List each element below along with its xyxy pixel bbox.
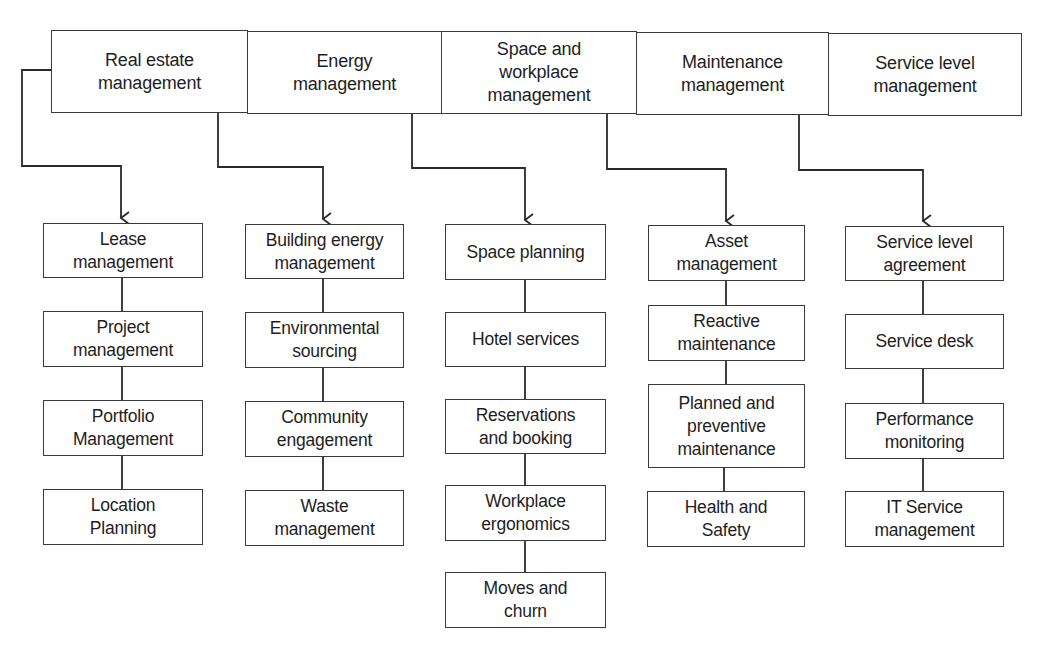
item-workplace-ergonomics: Workplace ergonomics (445, 485, 606, 541)
item-reactive-maintenance: Reactive maintenance (648, 305, 805, 361)
item-health-and-safety: Health and Safety (647, 491, 805, 547)
category-real-estate-management: Real estate management (51, 30, 248, 113)
item-moves-and-churn: Moves and churn (445, 572, 606, 628)
item-it-service-management: IT Service management (845, 491, 1004, 547)
category-maintenance-management: Maintenance management (636, 32, 829, 115)
item-reservations-and-booking: Reservations and booking (445, 399, 606, 454)
category-energy-management: Energy management (247, 31, 442, 114)
item-location-planning: Location Planning (43, 489, 203, 545)
item-planned-and-preventive-maintenance: Planned and preventive maintenance (648, 384, 805, 468)
item-portfolio-management: Portfolio Management (43, 400, 203, 456)
facility-management-diagram: Real estate management Energy management… (0, 0, 1040, 653)
item-hotel-services: Hotel services (445, 312, 606, 367)
item-lease-management: Lease management (43, 223, 203, 278)
category-space-and-workplace-management: Space and workplace management (441, 31, 637, 114)
item-project-management: Project management (43, 311, 203, 367)
item-space-planning: Space planning (445, 224, 606, 280)
item-performance-monitoring: Performance monitoring (845, 403, 1004, 459)
category-service-level-management: Service level management (828, 33, 1022, 116)
item-service-level-agreement: Service level agreement (845, 226, 1004, 281)
item-environmental-sourcing: Environmental sourcing (245, 312, 404, 368)
item-service-desk: Service desk (845, 314, 1004, 369)
item-asset-management: Asset management (648, 225, 805, 281)
item-community-engagement: Community engagement (245, 401, 404, 457)
item-building-energy-management: Building energy management (245, 224, 404, 279)
item-waste-management: Waste management (245, 490, 404, 546)
